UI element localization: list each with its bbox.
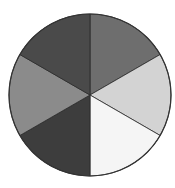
divided-circle xyxy=(0,0,175,188)
